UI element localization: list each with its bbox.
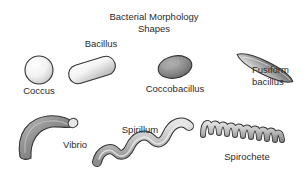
shape-spirochete — [203, 123, 282, 140]
label-fusiform-line1: Fusiform — [252, 64, 289, 75]
bacillus-cell-body — [66, 54, 117, 86]
shape-vibrio — [19, 116, 79, 160]
label-fusiform-line2: bacillus — [252, 76, 284, 87]
shape-coccobacillus — [156, 53, 194, 82]
label-vibrio: Vibrio — [63, 139, 87, 150]
bacterial-morphology-figure: Bacterial Morphology Shapes Coccus Bacil… — [0, 0, 308, 177]
figure-title-line2: Shapes — [138, 23, 170, 34]
coccus-cell-body — [25, 56, 53, 84]
label-spirochete: Spirochete — [224, 151, 269, 162]
label-spirillum: Spirillum — [122, 124, 159, 135]
morphology-diagram-canvas: Bacterial Morphology Shapes Coccus Bacil… — [0, 0, 308, 177]
shape-bacillus — [66, 54, 117, 86]
label-coccobacillus: Coccobacillus — [146, 83, 205, 94]
label-bacillus: Bacillus — [85, 38, 118, 49]
vibrio-cell-body — [19, 116, 76, 160]
shape-coccus — [25, 56, 53, 84]
label-coccus: Coccus — [23, 85, 55, 96]
figure-title-line1: Bacterial Morphology — [109, 11, 198, 22]
